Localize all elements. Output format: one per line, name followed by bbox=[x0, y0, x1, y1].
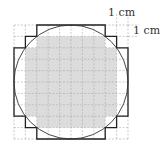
horizontal-unit-label: 1 cm bbox=[108, 6, 135, 19]
vertical-unit-label: 1 cm bbox=[133, 24, 160, 37]
diagram-canvas bbox=[0, 0, 168, 148]
